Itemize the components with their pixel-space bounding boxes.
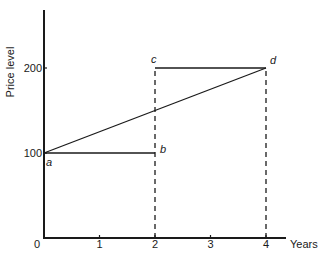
point-label-d: d — [270, 54, 277, 66]
y-axis-title: Price level — [4, 47, 16, 98]
chart: 01234100200abcd Price level Years — [0, 0, 326, 253]
point-label-c: c — [151, 53, 157, 65]
x-axis-title: Years — [290, 238, 318, 250]
x-tick-label: 4 — [263, 238, 269, 250]
point-label-b: b — [160, 143, 166, 155]
x-tick-label: 1 — [96, 238, 102, 250]
point-label-a: a — [46, 156, 52, 168]
y-tick-label: 200 — [24, 62, 42, 74]
x-tick-label: 0 — [34, 238, 40, 250]
x-tick-label: 3 — [207, 238, 213, 250]
y-tick-label: 100 — [24, 147, 42, 159]
x-tick-label: 2 — [152, 238, 158, 250]
